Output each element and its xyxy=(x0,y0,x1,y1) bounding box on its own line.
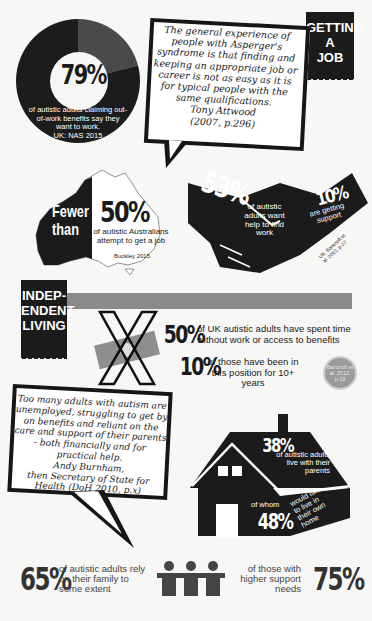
live-with-parents-caption: of autistic adults live with their paren… xyxy=(268,451,330,475)
ribbon-line: ENDENT xyxy=(21,303,67,318)
crossed-out-money-icon xyxy=(92,308,162,388)
ribbon-line: JOB xyxy=(306,50,354,65)
donut-source: UK: NAS 2015 xyxy=(54,131,103,140)
speech-tail xyxy=(68,488,138,550)
donut-caption: of autistic adults claiming out-of-work … xyxy=(28,106,128,140)
quote-text-burnham: Too many adults with autism are unemploy… xyxy=(12,393,169,498)
ribbon-line: LIVING xyxy=(21,318,67,333)
stat-ten-years-caption: of those have been in this position for … xyxy=(203,357,303,389)
of-whom-label: of whom xyxy=(251,500,279,509)
australia-source: Buckley 2015 xyxy=(114,253,150,259)
own-home-value: 48% xyxy=(258,510,293,534)
ribbon-line: A xyxy=(306,35,354,50)
section-divider-bar xyxy=(66,293,352,309)
australia-value: 50% xyxy=(100,196,149,229)
higher-needs-value: 75% xyxy=(313,560,364,598)
source-badge: Bancroft et al. 2012, p.19 xyxy=(323,356,357,390)
family-people-icon xyxy=(157,560,225,596)
ribbon-line: GETTING xyxy=(306,20,354,35)
section-label-getting-a-job: GETTING A JOB xyxy=(306,12,354,78)
fewer-than-label: Fewer than xyxy=(52,203,82,239)
donut-value: 79% xyxy=(61,60,99,90)
australia-caption: of autistic Australians attempt to get a… xyxy=(86,227,176,245)
want-help-caption: of autistic adults want help to find wor… xyxy=(237,203,292,238)
quote-text-attwood: The general experience of people with As… xyxy=(147,23,302,132)
ribbon-line: INDEP- xyxy=(21,288,67,303)
stat-no-work-caption: of UK autistic adults have spent time wi… xyxy=(197,324,352,345)
section-label-independent-living: INDEP- ENDENT LIVING xyxy=(21,280,67,357)
rely-on-family-caption: of autistic adults rely on their family … xyxy=(59,564,151,594)
higher-needs-caption: of those with higher support needs xyxy=(228,564,301,594)
